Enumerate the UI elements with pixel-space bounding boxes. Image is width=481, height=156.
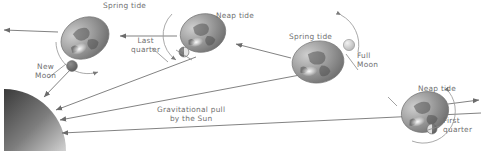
earth-full-moon xyxy=(289,38,346,87)
diagram-canvas xyxy=(0,0,481,156)
sun xyxy=(4,89,66,151)
tide-diagram: Spring tide New Moon Last quarter Neap t… xyxy=(0,0,481,156)
label-full-moon: Full Moon xyxy=(357,52,378,69)
label-first-quarter: First quarter xyxy=(443,117,472,134)
moon-last-quarter xyxy=(179,47,189,57)
label-new-moon: New Moon xyxy=(35,63,56,80)
moon-new xyxy=(67,61,78,72)
label-spring-tide-2: Spring tide xyxy=(289,33,332,42)
label-last-quarter: Last quarter xyxy=(131,37,160,54)
label-neap-tide-2: Neap tide xyxy=(418,85,456,94)
label-gravitational-pull: Gravitational pull by the Sun xyxy=(157,106,225,123)
earth-new-moon xyxy=(54,9,117,68)
moon-full xyxy=(343,39,354,50)
label-neap-tide-1: Neap tide xyxy=(216,12,254,21)
label-spring-tide-1: Spring tide xyxy=(103,2,146,11)
